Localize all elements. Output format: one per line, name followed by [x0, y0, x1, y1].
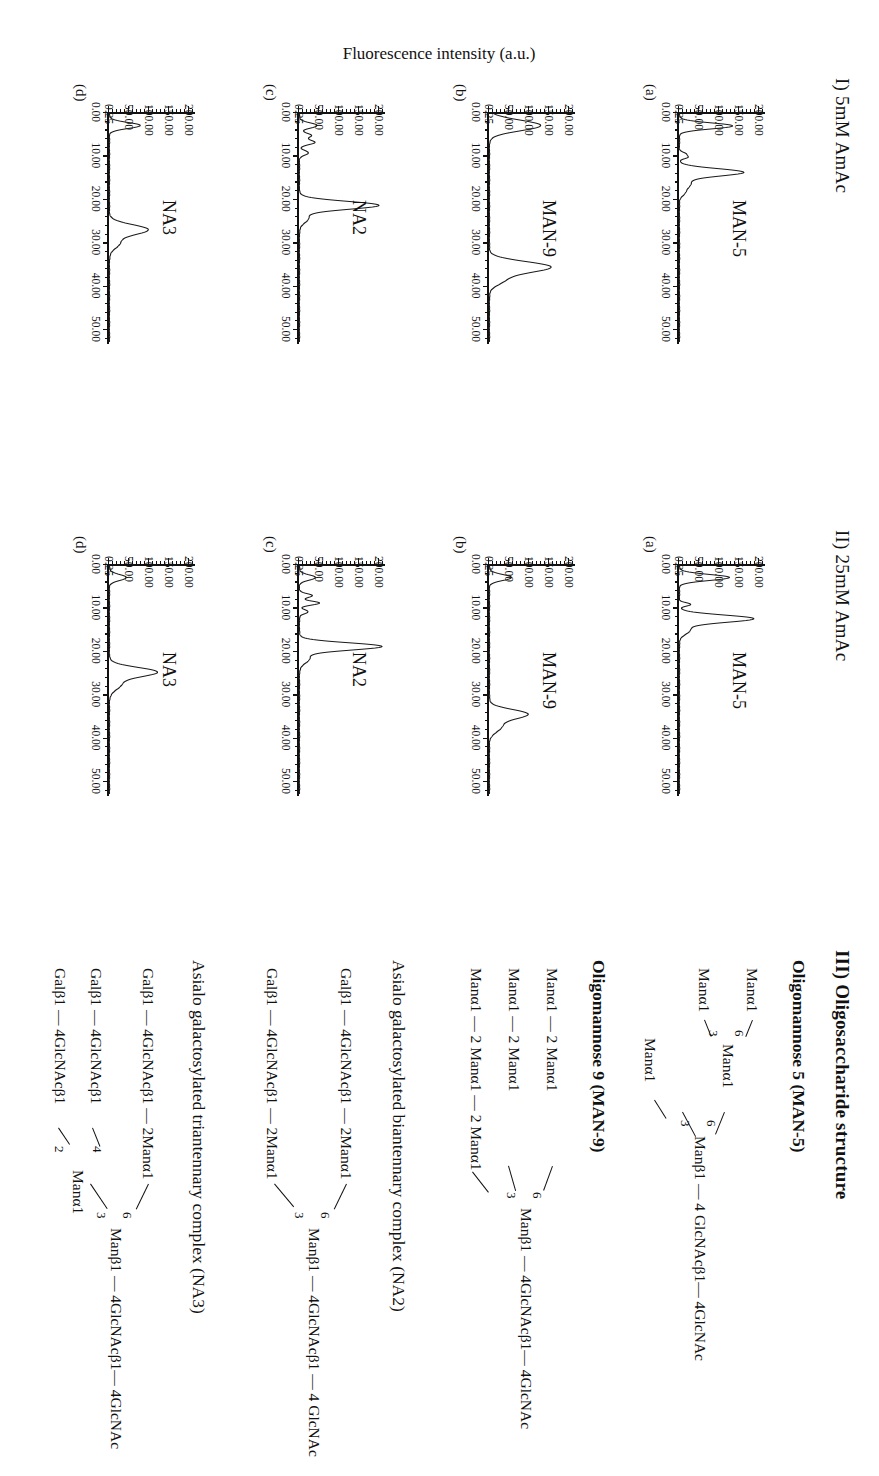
section-title-I: I) 5mM AmAc: [831, 78, 853, 193]
x-tick-label: 10.00: [660, 142, 672, 168]
x-tick-label: 20.00: [660, 638, 672, 664]
structure-title-man9: Oligomannose 9 (MAN-9): [588, 960, 609, 1152]
glycosidic-bond: [333, 1184, 347, 1210]
panel-sample-label: NA2: [348, 652, 369, 687]
section-title-III: III) Oligosaccharide structure: [831, 950, 853, 1199]
x-tick-label: 0.00: [280, 102, 292, 122]
panel-letter: (c): [262, 536, 279, 553]
na3-sub-label-4: 4: [89, 1146, 105, 1153]
x-tick-label: 50.00: [90, 768, 102, 794]
panel-letter: (a): [642, 536, 659, 553]
x-tick-label: 40.00: [470, 725, 482, 751]
man9-label-6: 6: [529, 1192, 545, 1199]
x-tick-label: 0.00: [660, 554, 672, 574]
glycosidic-bond: [135, 1184, 149, 1210]
x-tick-label: 40.00: [470, 273, 482, 299]
panel-sample-label: MAN-5: [728, 200, 749, 257]
glycosidic-bond: [92, 1128, 101, 1147]
x-tick-label: 40.00: [660, 273, 672, 299]
x-tick-label: 10.00: [90, 142, 102, 168]
chromatogram-trace: [297, 564, 385, 794]
panel-letter: (c): [262, 84, 279, 101]
na3-sub-label-2: 2: [51, 1146, 67, 1153]
structure-title-na2: Asialo galactosylated biantennary comple…: [388, 960, 409, 1312]
x-tick-label: 20.00: [470, 186, 482, 212]
x-tick-label: 30.00: [280, 681, 292, 707]
figure-page: I) 5mM AmAc II) 25mM AmAc III) Oligosacc…: [0, 0, 879, 1476]
na3-sub-node: Manα1: [69, 1170, 87, 1214]
chromatogram-trace: [487, 564, 575, 794]
na2-label-3: 3: [291, 1212, 307, 1219]
x-tick-label: 50.00: [660, 768, 672, 794]
x-tick-label: 40.00: [90, 273, 102, 299]
x-tick-label: 50.00: [280, 316, 292, 342]
panel-letter: (d): [72, 536, 89, 554]
panel-letter: (b): [452, 84, 469, 102]
na2-core: Manβ1 — 4GlcNAcβ1 — 4 GlcNAc: [305, 1228, 323, 1457]
na3-row-2: Galβ1 — 4GlcNAcβ1: [87, 968, 105, 1104]
x-tick-label: 50.00: [280, 768, 292, 794]
panel-sample-label: NA3: [158, 652, 179, 687]
na3-core: Manβ1 — 4GlcNAcβ1— 4GlcNAc: [107, 1228, 125, 1449]
man5-inner-node: Manα1: [719, 1044, 737, 1088]
x-tick-label: 30.00: [470, 229, 482, 255]
x-tick-label: 30.00: [90, 681, 102, 707]
glycosidic-bond: [58, 1128, 70, 1145]
figure-root: I) 5mM AmAc II) 25mM AmAc III) Oligosacc…: [0, 0, 879, 1476]
x-tick-label: 0.00: [90, 102, 102, 122]
panel-sample-label: MAN-9: [538, 652, 559, 709]
x-tick-label: 10.00: [470, 142, 482, 168]
man5-arm-1: Manα1: [743, 968, 761, 1012]
glycosidic-bond: [90, 1184, 108, 1210]
man9-row-1: Manα1 — 2 Manα1: [543, 968, 561, 1091]
na3-row-3: Galβ1 — 4GlcNAcβ1: [51, 968, 69, 1104]
man5-arm-2: Manα1: [695, 968, 713, 1012]
man9-label-3: 3: [503, 1192, 519, 1199]
x-tick-label: 30.00: [660, 681, 672, 707]
glycosidic-bond: [274, 1184, 294, 1208]
x-tick-label: 20.00: [90, 186, 102, 212]
y-axis-title: Fluorescence intensity (a.u.): [309, 44, 569, 64]
panel-letter: (d): [72, 84, 89, 102]
panel-sample-label: MAN-9: [538, 200, 559, 257]
glycosidic-bond: [508, 1166, 517, 1191]
x-tick-label: 20.00: [470, 638, 482, 664]
x-tick-label: 40.00: [660, 725, 672, 751]
structure-title-na3: Asialo galactosylated triantennary compl…: [188, 960, 209, 1314]
panel-sample-label: NA3: [158, 200, 179, 235]
man9-core: Manβ1 — 4GlcNAcβ1— 4GlcNAc: [517, 1208, 535, 1429]
chromatogram-trace: [107, 112, 195, 342]
chromatogram-trace: [677, 564, 765, 794]
x-tick-label: 40.00: [90, 725, 102, 751]
man9-row-3: Manα1 — 2 Manα1 — 2 Manα1: [467, 968, 485, 1171]
glycosidic-bond: [472, 1172, 489, 1193]
na2-label-6: 6: [317, 1212, 333, 1219]
panel-letter: (a): [642, 84, 659, 101]
na2-row-1: Galβ1 — 4GlcNAcβ1 — 2Manα1: [337, 968, 355, 1180]
x-tick-label: 10.00: [90, 594, 102, 620]
panel-letter: (b): [452, 536, 469, 554]
man9-row-2: Manα1 — 2 Manα1: [505, 968, 523, 1091]
x-tick-label: 0.00: [470, 554, 482, 574]
chromatogram-trace: [107, 564, 195, 794]
man5-arm-3: Manα1: [641, 1038, 659, 1082]
chromatogram-trace: [487, 112, 575, 342]
man5-label-6: 6: [703, 1120, 719, 1127]
na2-row-2: Galβ1 — 4GlcNAcβ1 — 2Manα1: [263, 968, 281, 1180]
x-tick-label: 30.00: [470, 681, 482, 707]
na3-label-6: 6: [119, 1212, 135, 1219]
x-tick-label: 10.00: [470, 594, 482, 620]
x-tick-label: 50.00: [470, 316, 482, 342]
x-tick-label: 20.00: [660, 186, 672, 212]
x-tick-label: 20.00: [280, 186, 292, 212]
panel-sample-label: NA2: [348, 200, 369, 235]
x-tick-label: 10.00: [660, 594, 672, 620]
x-tick-label: 40.00: [280, 725, 292, 751]
structure-title-man5: Oligomannose 5 (MAN-5): [788, 960, 809, 1152]
glycosidic-bond: [543, 1166, 553, 1191]
glycosidic-bond: [745, 1020, 753, 1037]
chromatogram-trace: [677, 112, 765, 342]
panel-sample-label: MAN-5: [728, 652, 749, 709]
x-tick-label: 40.00: [280, 273, 292, 299]
x-tick-label: 30.00: [660, 229, 672, 255]
